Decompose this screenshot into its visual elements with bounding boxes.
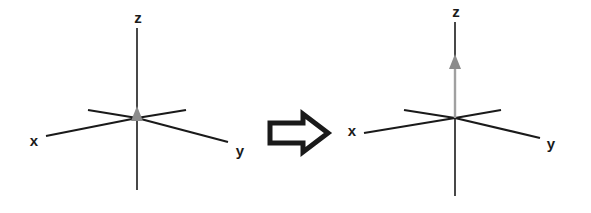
left-y-axis-label: y xyxy=(236,142,245,159)
right-x-axis-label: x xyxy=(348,122,357,139)
figure-background xyxy=(0,0,591,213)
right-y-axis-label: y xyxy=(547,135,556,152)
right-z-axis-label: z xyxy=(452,3,460,20)
left-x-axis-label: x xyxy=(30,132,39,149)
left-z-axis-label: z xyxy=(134,9,142,26)
axes-transition-figure: x y z x y z xyxy=(0,0,591,213)
